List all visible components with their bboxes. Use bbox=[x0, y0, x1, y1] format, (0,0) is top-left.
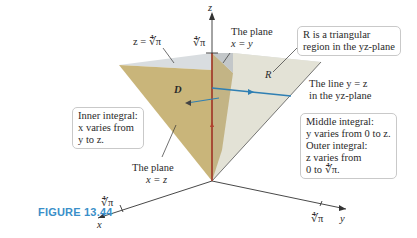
inner-callout-line1: Inner integral: bbox=[78, 110, 138, 122]
leader-plane-xz bbox=[162, 125, 176, 157]
y-axis-arrowhead bbox=[339, 205, 346, 211]
line-yz-label-line2: in the yz-plane bbox=[309, 90, 371, 102]
y-axis bbox=[212, 181, 346, 209]
line-yz-label-line1: The line y = z bbox=[309, 78, 367, 90]
plane-xz-label-line2: x = z bbox=[146, 174, 167, 186]
plane-xz-label-line1: The plane bbox=[132, 162, 174, 174]
y-tick-label: ∜π bbox=[311, 213, 323, 225]
x-axis-label: x bbox=[97, 219, 102, 231]
plane-xy-label-line2: x = y bbox=[231, 38, 253, 50]
outer-callout-line2: z varies from bbox=[306, 152, 391, 164]
z-axis-label: z bbox=[208, 2, 212, 14]
inner-callout-line2: x varies from bbox=[78, 122, 138, 134]
outer-callout-line1: Outer integral: bbox=[306, 140, 391, 152]
middle-callout-line2: y varies from 0 to z. bbox=[306, 128, 391, 140]
outer-callout-line3: 0 to ∜π. bbox=[306, 164, 391, 176]
middle-callout-line1: Middle integral: bbox=[306, 116, 391, 128]
region-r-callout-line2: region in the yz-plane bbox=[303, 41, 395, 53]
region-r-callout-line1: R is a triangular bbox=[303, 29, 395, 41]
figure-caption: FIGURE 13.44 bbox=[38, 206, 113, 218]
inner-callout-line3: y to z. bbox=[78, 134, 138, 146]
z-plane-label: z = ∜π bbox=[133, 36, 161, 48]
region-r-callout: R is a triangular region in the yz-plane bbox=[297, 26, 401, 56]
region-d-label: D bbox=[174, 84, 182, 96]
y-axis-label: y bbox=[340, 213, 345, 225]
region-r-label: R bbox=[265, 69, 271, 81]
x-axis bbox=[98, 181, 212, 218]
z-tick-label: ∜π bbox=[193, 37, 205, 49]
inner-integral-callout: Inner integral: x varies from y to z. bbox=[72, 107, 144, 149]
plane-xy-label-line1: The plane bbox=[231, 26, 273, 38]
middle-outer-integral-callout: Middle integral: y varies from 0 to z. O… bbox=[300, 113, 397, 179]
